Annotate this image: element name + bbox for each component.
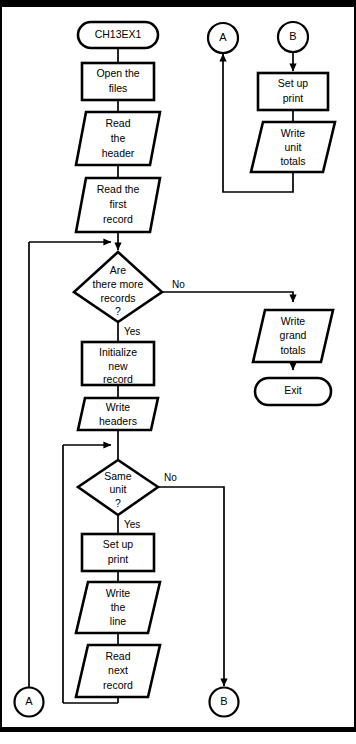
node-write-line-line2: the — [111, 601, 126, 613]
node-write-grand-totals-line2: grand — [280, 329, 307, 341]
connector-b-top-label: B — [289, 30, 296, 42]
node-read-header-line2: the — [111, 132, 126, 144]
node-start: CH13EX1 — [78, 22, 158, 48]
connector-a-bottom: A — [15, 688, 44, 717]
node-read-next-record: Read next record — [76, 645, 160, 697]
node-read-header-line1: Read — [105, 117, 130, 129]
node-more-records-line4: ? — [115, 305, 121, 317]
node-exit: Exit — [255, 378, 331, 405]
node-initialize-record-line2: new — [108, 360, 128, 372]
node-more-records-line1: Are — [110, 264, 127, 276]
node-write-unit-totals: Write unit totals — [251, 122, 335, 172]
node-set-up-print-main-line1: Set up — [103, 538, 134, 550]
node-write-line: Write the line — [76, 582, 160, 633]
branch-label-more-records-yes: Yes — [124, 326, 140, 337]
node-more-records-decision: Are there more records ? — [74, 252, 162, 322]
node-open-files-line1: Open the — [96, 67, 139, 79]
node-initialize-record-line1: Initialize — [99, 346, 137, 358]
connector-b-top: B — [278, 22, 308, 52]
connector-b-bottom: B — [210, 688, 239, 717]
node-read-next-record-line3: record — [103, 679, 133, 691]
node-read-first-record-line1: Read the — [97, 183, 140, 195]
flow-lines — [29, 48, 293, 703]
node-write-unit-totals-line3: totals — [280, 155, 305, 167]
node-read-first-record-line2: first — [110, 198, 127, 210]
node-open-files: Open the files — [82, 63, 154, 100]
node-same-unit-line3: ? — [115, 497, 121, 509]
node-set-up-print-main: Set up print — [82, 534, 154, 571]
node-write-headers-line1: Write — [106, 401, 130, 413]
node-read-first-record-line3: record — [103, 213, 133, 225]
connector-a-top: A — [208, 23, 238, 53]
node-set-up-print-b: Set up print — [258, 73, 328, 110]
node-write-grand-totals-line3: totals — [280, 344, 305, 356]
branch-label-more-records-no: No — [172, 279, 185, 290]
flowchart-svg: CH13EX1 Open the files Read the header R… — [0, 0, 356, 744]
connector-a-bottom-label: A — [25, 695, 33, 707]
node-write-grand-totals-line1: Write — [281, 315, 305, 327]
node-same-unit-decision: Same unit ? — [78, 460, 158, 515]
node-write-headers-line2: headers — [99, 415, 137, 427]
node-write-unit-totals-line2: unit — [285, 141, 302, 153]
node-read-header-line3: header — [102, 147, 135, 159]
node-read-next-record-line2: next — [108, 664, 128, 676]
node-read-next-record-line1: Read — [105, 650, 130, 662]
node-write-line-line3: line — [110, 615, 127, 627]
node-read-first-record: Read the first record — [76, 178, 160, 232]
node-exit-label: Exit — [284, 384, 302, 396]
node-write-line-line1: Write — [106, 587, 130, 599]
node-same-unit-line1: Same — [104, 470, 132, 482]
node-start-label: CH13EX1 — [95, 28, 142, 40]
branch-label-same-unit-yes: Yes — [124, 519, 140, 530]
connector-b-bottom-label: B — [220, 695, 227, 707]
node-set-up-print-b-line1: Set up — [278, 77, 309, 89]
flowchart-page: CH13EX1 Open the files Read the header R… — [0, 0, 356, 744]
node-set-up-print-b-line2: print — [283, 92, 304, 104]
branch-label-same-unit-no: No — [164, 472, 177, 483]
node-write-grand-totals: Write grand totals — [253, 310, 333, 362]
node-initialize-record: Initialize new record — [82, 342, 154, 385]
node-read-header: Read the header — [76, 112, 160, 165]
connector-a-top-label: A — [219, 31, 227, 43]
node-initialize-record-line3: record — [103, 373, 133, 385]
node-same-unit-line2: unit — [110, 483, 127, 495]
node-write-headers: Write headers — [78, 398, 158, 430]
node-open-files-line2: files — [109, 82, 128, 94]
node-more-records-line2: there more — [93, 278, 144, 290]
node-write-unit-totals-line1: Write — [281, 127, 305, 139]
node-set-up-print-main-line2: print — [108, 553, 129, 565]
node-more-records-line3: records — [100, 292, 135, 304]
